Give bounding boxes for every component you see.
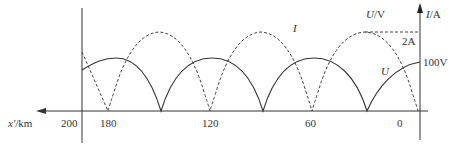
y-axis-right-label: I/A [426, 9, 441, 20]
current-unit: /A [430, 8, 441, 20]
curve-I-label: I [293, 23, 297, 34]
curve-U-label: U [381, 66, 389, 77]
voltage-value-label: 100V [423, 57, 447, 68]
x-tick-200: 200 [61, 118, 78, 129]
x-unit: /km [15, 117, 32, 129]
y-axis-arrow-icon [417, 3, 423, 13]
voltage-var: U [366, 8, 374, 20]
voltage-unit: /V [374, 8, 385, 20]
x-axis-arrow-icon [36, 108, 46, 114]
x-tick-180: 180 [100, 118, 117, 129]
voltage-curve-U [82, 58, 420, 111]
current-curve-I [82, 32, 418, 111]
x-axis-label: x′/km [8, 118, 32, 129]
peak-current-label: 2A [402, 36, 415, 47]
x-tick-0: 0 [397, 118, 403, 129]
x-tick-60: 60 [305, 118, 316, 129]
x-tick-120: 120 [202, 118, 219, 129]
y-axis-left-label: U/V [366, 9, 385, 20]
